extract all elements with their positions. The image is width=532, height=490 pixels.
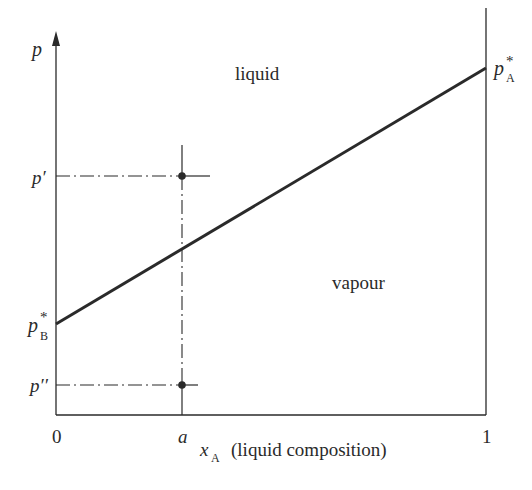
point-p-double-prime [178, 381, 186, 389]
svg-text:*: * [506, 53, 514, 69]
region-vapour-label: vapour [332, 272, 385, 293]
x-tick-a: a [178, 426, 188, 447]
raoult-line [56, 68, 486, 324]
x-axis-label: x A (liquid composition) [199, 439, 387, 465]
svg-text:B: B [40, 329, 48, 343]
y-axis-label: p [30, 38, 42, 61]
svg-text:(liquid composition): (liquid composition) [231, 439, 387, 461]
svg-text:A: A [211, 451, 220, 465]
phase-diagram: p p′ p′′ p * B p * A liquid vapour 0 a 1… [0, 0, 532, 490]
svg-text:p: p [26, 314, 38, 337]
svg-text:p: p [492, 57, 504, 80]
svg-text:A: A [506, 71, 515, 85]
svg-text:*: * [40, 309, 48, 325]
region-liquid-label: liquid [235, 63, 280, 84]
p-prime-label: p′ [30, 167, 47, 188]
x-tick-1: 1 [482, 426, 492, 447]
p-double-prime-label: p′′ [28, 375, 49, 396]
x-tick-0: 0 [52, 426, 62, 447]
svg-text:x: x [199, 439, 209, 460]
point-p-prime [178, 172, 186, 180]
pB-star-label: p * B [26, 309, 48, 343]
y-axis-arrow-icon [52, 31, 60, 46]
pA-star-label: p * A [492, 53, 515, 85]
